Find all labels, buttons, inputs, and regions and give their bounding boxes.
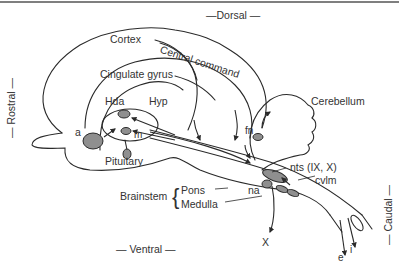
nucleus-cvlm-2 [286,188,299,198]
label-x: X [262,237,269,248]
label-a: a [75,127,81,138]
label-medulla: Medulla [181,199,218,210]
label-pons: Pons [181,185,205,196]
label-brainstem: Brainstem [120,191,167,202]
nucleus-a [83,133,103,149]
label-e: e [338,253,344,263]
nucleus-hda [118,110,130,118]
nucleus-cvlm-1 [275,184,288,194]
label-i: i [350,245,352,255]
brainstem-brace: { [172,186,179,208]
label-fn: fn [245,126,253,136]
label-hda: Hda [105,96,124,107]
orientation-ventral: — Ventral — [116,244,176,255]
label-pituitary: Pituitary [105,156,143,167]
orientation-caudal: — Caudal — [382,185,394,245]
label-m: m [134,130,142,140]
label-cvlm: cvlm [315,175,337,186]
label-cortex: Cortex [110,34,141,45]
brain-diagram [0,0,399,266]
nucleus-fn [253,134,263,141]
label-nts: nts (IX, X) [290,162,337,173]
orientation-rostral: — Rostral — [5,78,17,138]
label-na: na [248,185,260,196]
label-cerebellum: Cerebellum [311,96,365,107]
label-cingulate-gyrus: Cingulate gyrus [100,69,173,80]
orientation-dorsal: —Dorsal — [206,10,260,21]
nucleus-na [262,180,272,188]
nucleus-m [121,128,131,135]
label-hyp: Hyp [149,96,168,107]
